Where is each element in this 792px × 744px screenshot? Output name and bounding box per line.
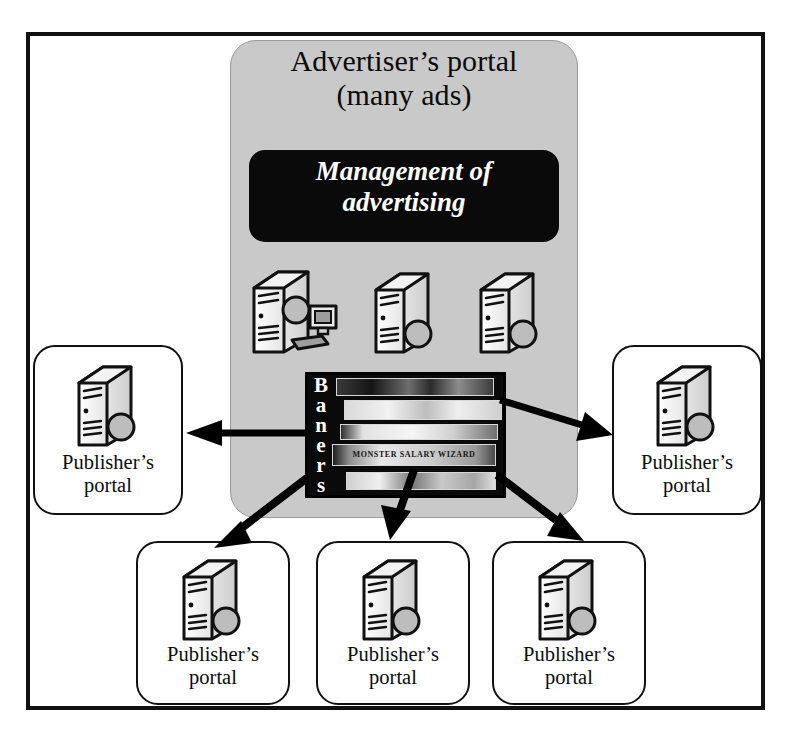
banner-strip-4: MONSTER SALARY WIZARD — [332, 444, 496, 466]
banners-letter-5: s — [308, 475, 334, 495]
diagram-canvas: Advertiser’s portal (many ads) Managemen… — [0, 0, 792, 744]
publisher-bottom-2-box[interactable]: Publisher’s portal — [316, 541, 470, 705]
management-line-2: advertising — [249, 187, 559, 218]
publisher-left-label-line-2: portal — [35, 474, 181, 497]
publisher-bottom-3-label: Publisher’s portal — [494, 643, 644, 689]
publisher-left-label-line-1: Publisher’s — [35, 451, 181, 474]
management-line-1: Management of — [249, 156, 559, 187]
publisher-bottom-3-label-line-1: Publisher’s — [494, 643, 644, 666]
publisher-bottom-3-label-line-2: portal — [494, 666, 644, 689]
banner-strip-1 — [336, 378, 494, 396]
publisher-bottom-1-label-line-2: portal — [138, 666, 288, 689]
banners-letter-0: B — [308, 375, 334, 395]
publisher-bottom-3-box[interactable]: Publisher’s portal — [492, 541, 646, 705]
publisher-left-label: Publisher’s portal — [35, 451, 181, 497]
banner-strip-3 — [340, 424, 498, 440]
publisher-left-server-icon — [73, 361, 145, 449]
publisher-bottom-2-server-icon — [358, 555, 430, 643]
publisher-left-box[interactable]: Publisher’s portal — [33, 345, 183, 515]
server-2-icon — [370, 268, 442, 356]
server-with-workstation-icon — [248, 266, 344, 358]
banners-letter-2: n — [308, 415, 334, 435]
publisher-right-label-line-1: Publisher’s — [614, 451, 760, 474]
banners-letter-3: e — [308, 435, 334, 455]
advertiser-portal-title: Advertiser’s portal (many ads) — [232, 44, 576, 111]
advertiser-title-line-1: Advertiser’s portal — [232, 44, 576, 78]
publisher-bottom-2-label-line-2: portal — [318, 666, 468, 689]
banners-letter-1: a — [308, 395, 334, 415]
publisher-right-server-icon — [652, 361, 724, 449]
publisher-right-label: Publisher’s portal — [614, 451, 760, 497]
publisher-bottom-1-label-line-1: Publisher’s — [138, 643, 288, 666]
server-3-icon — [475, 268, 547, 356]
publisher-bottom-3-server-icon — [534, 555, 606, 643]
banners-letter-4: r — [308, 455, 334, 475]
advertiser-title-line-2: (many ads) — [232, 78, 576, 112]
banner-strips: MONSTER SALARY WIZARD — [336, 376, 502, 494]
banner-strip-5 — [346, 472, 496, 490]
publisher-bottom-1-server-icon — [178, 555, 250, 643]
publisher-bottom-1-box[interactable]: Publisher’s portal — [136, 541, 290, 705]
publisher-right-box[interactable]: Publisher’s portal — [612, 345, 762, 515]
banners-label: B a n e r s — [308, 375, 334, 495]
publisher-bottom-1-label: Publisher’s portal — [138, 643, 288, 689]
banner-strip-2 — [344, 400, 502, 420]
publisher-right-label-line-2: portal — [614, 474, 760, 497]
publisher-bottom-2-label: Publisher’s portal — [318, 643, 468, 689]
management-box-label: Management of advertising — [249, 156, 559, 218]
publisher-bottom-2-label-line-1: Publisher’s — [318, 643, 468, 666]
